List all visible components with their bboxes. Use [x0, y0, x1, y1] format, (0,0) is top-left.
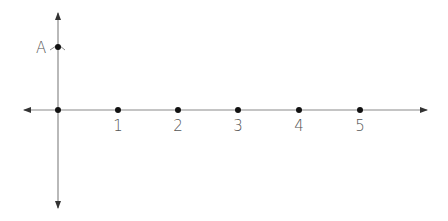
x-point-5: 5: [355, 107, 365, 135]
x-point-1: 1: [113, 107, 123, 135]
origin-point: [55, 107, 61, 113]
coordinate-diagram: A 1 2 3 4 5: [0, 0, 448, 221]
x-point-2: 2: [173, 107, 183, 135]
x-label-4: 4: [294, 117, 304, 135]
x-label-3: 3: [233, 117, 243, 135]
x-label-2: 2: [173, 117, 183, 135]
point-a: [55, 44, 61, 50]
x-point-4: 4: [294, 107, 304, 135]
point-a-label: A: [36, 39, 46, 57]
x-label-1: 1: [113, 117, 123, 135]
x-point-3: 3: [233, 107, 243, 135]
x-label-5: 5: [355, 117, 365, 135]
